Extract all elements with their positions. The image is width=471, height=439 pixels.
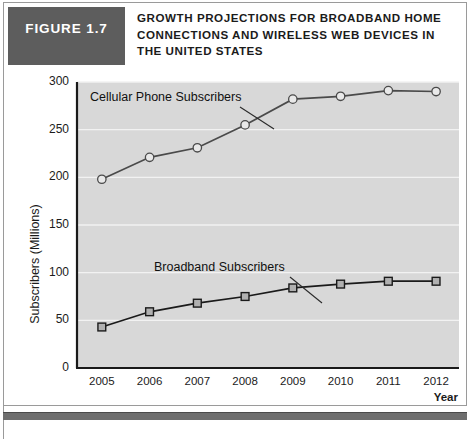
line-chart-plot: Cellular Phone SubscribersBroadband Subs… — [4, 65, 466, 405]
data-point-marker — [384, 86, 392, 94]
footer-divider-bar — [3, 412, 467, 420]
data-point-marker — [193, 299, 201, 307]
figure-number-badge: FIGURE 1.7 — [8, 7, 125, 65]
data-point-marker — [145, 153, 153, 161]
series-annotation-label: Broadband Subscribers — [154, 260, 285, 274]
series-annotation-label: Cellular Phone Subscribers — [90, 90, 241, 104]
figure-card: FIGURE 1.7 GROWTH PROJECTIONS FOR BROADB… — [3, 2, 467, 406]
footer-caption — [6, 424, 466, 438]
data-point-marker — [289, 95, 297, 103]
data-point-marker — [336, 92, 344, 100]
figure-header: FIGURE 1.7 GROWTH PROJECTIONS FOR BROADB… — [4, 3, 466, 65]
chart-area: Subscribers (Millions) Year 050100150200… — [4, 65, 466, 405]
data-point-marker — [241, 293, 249, 301]
data-point-marker — [289, 284, 297, 292]
data-point-marker — [432, 87, 440, 95]
data-point-marker — [241, 121, 249, 129]
data-point-marker — [193, 144, 201, 152]
figure-title: GROWTH PROJECTIONS FOR BROADBAND HOME CO… — [137, 10, 459, 60]
data-point-marker — [146, 308, 154, 316]
data-point-marker — [98, 175, 106, 183]
data-point-marker — [432, 277, 440, 285]
data-point-marker — [384, 277, 392, 285]
data-point-marker — [98, 323, 106, 331]
data-point-marker — [337, 280, 345, 288]
figure-number-label: FIGURE 1.7 — [8, 21, 125, 36]
card-left-rule — [3, 406, 4, 439]
